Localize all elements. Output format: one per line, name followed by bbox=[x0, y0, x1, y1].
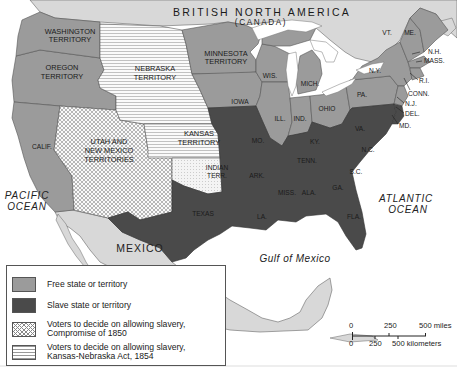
label-del: DEL. bbox=[405, 110, 420, 117]
label-ga: GA. bbox=[332, 184, 344, 191]
label-ark: ARK. bbox=[249, 172, 265, 179]
label-wis: WIS. bbox=[263, 72, 277, 79]
legend-label: Voters to decide on allowing slavery, Ka… bbox=[47, 343, 185, 362]
scale-km-500: 500 kilometers bbox=[392, 339, 441, 348]
label-ny: N.Y. bbox=[369, 67, 381, 74]
crosshatch-swatch bbox=[12, 322, 36, 337]
legend-label: Voters to decide on allowing slavery, Co… bbox=[47, 320, 185, 339]
label-sc: S.C. bbox=[350, 168, 363, 175]
legend-item-slave: Slave state or territory bbox=[12, 298, 131, 313]
label-pa: PA. bbox=[357, 91, 367, 98]
label-utah-nm-2: NEW MEXICO bbox=[85, 146, 134, 155]
label-nebraska-2: TERRITORY bbox=[134, 73, 177, 82]
label-la: LA. bbox=[257, 213, 267, 220]
label-utah-nm-3: TERRITORIES bbox=[84, 155, 134, 164]
legend-item-free: Free state or territory bbox=[12, 277, 127, 292]
label-ohio: OHIO bbox=[319, 105, 336, 112]
label-conn: CONN. bbox=[408, 90, 429, 97]
label-oregon-2: TERRITORY bbox=[41, 72, 84, 81]
label-kansas: KANSAS bbox=[184, 129, 214, 138]
label-ill: ILL. bbox=[275, 115, 286, 122]
legend-label: Slave state or territory bbox=[47, 301, 131, 310]
scale-miles-500: 500 miles bbox=[419, 321, 452, 330]
label-washington-2: TERRITORY bbox=[49, 35, 92, 44]
label-md: MD. bbox=[399, 122, 411, 129]
label-nh: N.H. bbox=[428, 48, 441, 55]
label-indian: INDIAN bbox=[206, 164, 229, 171]
label-va: VA. bbox=[355, 125, 365, 132]
label-iowa: IOWA bbox=[231, 98, 249, 105]
slave-swatch bbox=[12, 298, 36, 313]
label-atlantic-2: OCEAN bbox=[388, 204, 428, 215]
label-miss: MISS. bbox=[278, 189, 296, 196]
label-nc: N.C. bbox=[361, 146, 374, 153]
scale-km-0: 0 bbox=[349, 339, 353, 348]
label-minnesota-2: TERRITORY bbox=[205, 57, 248, 66]
label-indian-2: TERR. bbox=[207, 172, 227, 179]
label-pacific: PACIFIC bbox=[5, 190, 49, 201]
label-british-north-america: BRITISH NORTH AMERICA bbox=[173, 6, 351, 18]
label-mich: MICH. bbox=[301, 80, 320, 87]
label-vt: VT. bbox=[382, 29, 392, 36]
scale-miles-0: 0 bbox=[349, 321, 353, 330]
label-canada: (CANADA) bbox=[235, 18, 287, 27]
free-swatch bbox=[12, 277, 36, 292]
map-legend: Free state or territory Slave state or t… bbox=[6, 265, 226, 366]
scale-km-250: 250 bbox=[369, 339, 382, 348]
label-mass: MASS. bbox=[424, 57, 445, 64]
scale-miles-250: 250 bbox=[384, 321, 397, 330]
label-mexico: MEXICO bbox=[116, 242, 163, 254]
legend-item-kansas-nebraska: Voters to decide on allowing slavery, Ka… bbox=[12, 343, 185, 362]
scale-bar: 0 250 500 miles 0 250 500 kilometers bbox=[352, 322, 457, 362]
label-mo: MO. bbox=[252, 137, 265, 144]
label-kansas-2: TERRITORY bbox=[178, 138, 221, 147]
label-tenn: TENN. bbox=[297, 157, 317, 164]
label-ri: R.I. bbox=[419, 77, 429, 84]
legend-label: Free state or territory bbox=[47, 280, 127, 289]
label-calif: CALIF. bbox=[32, 143, 52, 150]
minnesota-territory bbox=[182, 22, 262, 74]
label-utah-nm: UTAH AND bbox=[91, 137, 128, 146]
label-pacific-2: OCEAN bbox=[7, 201, 47, 212]
label-ind: IND. bbox=[293, 115, 306, 122]
label-texas: TEXAS bbox=[192, 210, 214, 217]
label-fla: FLA. bbox=[347, 213, 361, 220]
horizontal-lines-swatch bbox=[12, 345, 36, 360]
label-nj: N.J. bbox=[405, 100, 417, 107]
label-nebraska: NEBRASKA bbox=[135, 64, 175, 73]
label-me: ME. bbox=[404, 29, 416, 36]
label-ala: ALA. bbox=[302, 189, 316, 196]
legend-item-compromise-1850: Voters to decide on allowing slavery, Co… bbox=[12, 320, 185, 339]
label-oregon: OREGON bbox=[46, 63, 79, 72]
label-ky: KY. bbox=[310, 138, 320, 145]
label-atlantic: ATLANTIC bbox=[378, 193, 433, 204]
label-gulf: Gulf of Mexico bbox=[260, 253, 331, 264]
